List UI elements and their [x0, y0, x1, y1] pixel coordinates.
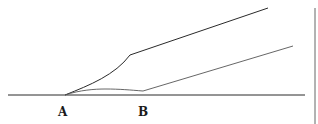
- label-b: B: [138, 105, 148, 119]
- diagram-canvas: A B: [0, 0, 318, 124]
- lower-curve: [65, 46, 293, 95]
- upper-curve: [65, 8, 268, 95]
- label-a: A: [57, 105, 68, 119]
